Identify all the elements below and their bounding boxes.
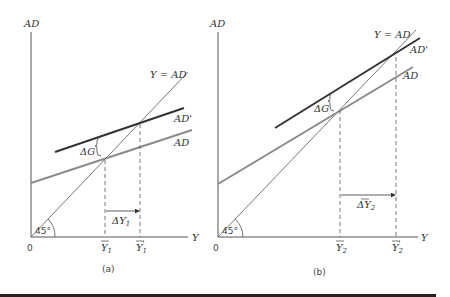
svg-text:ΔY2: ΔY2 — [356, 199, 376, 212]
svg-text:Y'1: Y'1 — [136, 240, 147, 255]
panel-a: AD Y 0 Y = AD 45° AD AD' ΔG ΔY1 Y1 Y'1 — [23, 18, 200, 274]
delta-y-label-a: ΔY1 — [111, 215, 130, 228]
ad-prime-label-a: AD' — [173, 113, 192, 124]
y-equals-ad-line-a — [31, 72, 188, 237]
ad-label-b: AD — [402, 70, 418, 81]
svg-text:Y1: Y1 — [101, 242, 112, 255]
delta-y-label-b: ΔY2 — [356, 199, 376, 212]
x-tick-y2-b: Y2 — [336, 241, 348, 255]
caption-a: (a) — [102, 264, 115, 274]
y-equals-ad-line-b — [218, 30, 416, 237]
angle-label-a: 45° — [35, 226, 51, 236]
ad-line-a — [31, 130, 192, 183]
ad-prime-line-b — [275, 38, 420, 128]
ad-prime-label-b: AD' — [409, 44, 428, 55]
diagram-canvas: AD Y 0 Y = AD 45° AD AD' ΔG ΔY1 Y1 Y'1 — [0, 0, 450, 297]
x-axis-label-b: Y — [421, 232, 429, 243]
y-equals-ad-label-a: Y = AD — [150, 69, 187, 80]
y-axis-label-b: AD — [209, 18, 225, 29]
angle-label-b: 45° — [222, 226, 238, 236]
panel-b: AD Y 0 Y = AD 45° AD AD' ΔG ΔY2 Y2 — [209, 18, 429, 277]
svg-text:Y2: Y2 — [336, 242, 348, 255]
origin-label-a: 0 — [27, 243, 33, 253]
x-tick-y1prime-a: Y'1 — [136, 240, 147, 255]
ad-prime-line-a — [55, 108, 184, 152]
origin-label-b: 0 — [213, 243, 219, 253]
ad-line-b — [218, 67, 413, 184]
caption-b: (b) — [313, 267, 326, 277]
ad-label-a: AD — [173, 137, 189, 148]
delta-g-brace-a — [95, 137, 101, 156]
y-equals-ad-label-b: Y = AD — [374, 29, 411, 40]
y-axis-label-a: AD — [23, 18, 39, 29]
delta-g-label-a: ΔG — [79, 146, 95, 157]
svg-text:Y'2: Y'2 — [392, 240, 404, 255]
x-axis-label-a: Y — [192, 232, 200, 243]
x-tick-y1-a: Y1 — [101, 241, 112, 255]
delta-g-label-b: ΔG — [313, 103, 329, 114]
x-tick-y2prime-b: Y'2 — [392, 240, 404, 255]
